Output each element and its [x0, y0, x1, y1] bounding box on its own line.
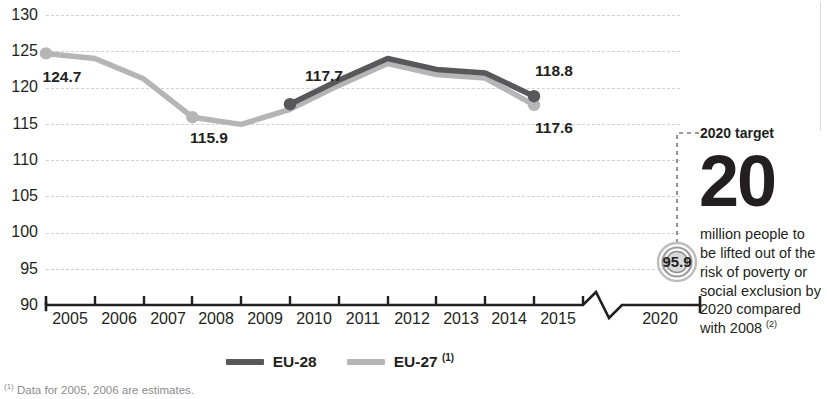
- target-description-sup: (2): [766, 319, 777, 329]
- target-marker-value: 95.9: [662, 253, 691, 270]
- data-label-eu27-2005: 124.7: [43, 68, 82, 86]
- y-tick-105: 105: [0, 187, 38, 205]
- x-tick-2005: 2005: [52, 310, 88, 328]
- legend-item-eu28[interactable]: EU-28: [226, 353, 317, 371]
- x-tick-2012: 2012: [394, 310, 430, 328]
- x-tick-2006: 2006: [101, 310, 137, 328]
- data-label-eu28-2015: 118.8: [535, 62, 573, 80]
- x-tick-2009: 2009: [247, 310, 283, 328]
- footnote-text: Data for 2005, 2006 are estimates.: [14, 384, 194, 396]
- target-marker-layer: 95.9: [46, 15, 706, 315]
- x-tick-2011: 2011: [346, 310, 380, 328]
- y-tick-120: 120: [0, 78, 38, 96]
- y-tick-100: 100: [0, 223, 38, 241]
- target-description: million people to be lifted out of the r…: [700, 225, 824, 338]
- legend-label-eu28: EU-28: [273, 353, 317, 371]
- x-tick-2013: 2013: [443, 310, 479, 328]
- right-vertical-rule: [820, 2, 821, 130]
- target-marker-95-9: 95.9: [658, 243, 696, 281]
- target-callout-title: 2020 target: [700, 125, 774, 141]
- plot-area: 95.9: [46, 15, 680, 305]
- y-tick-95: 95: [0, 260, 38, 278]
- x-tick-2014: 2014: [491, 310, 527, 328]
- y-tick-110: 110: [0, 151, 38, 169]
- y-tick-130: 130: [0, 6, 38, 24]
- data-label-eu27-2015: 117.6: [535, 119, 573, 137]
- y-tick-115: 115: [0, 115, 38, 133]
- chart-root: 130 125 120 115 110 105 100 95 90: [0, 0, 827, 399]
- legend-label-eu27-sup: (1): [442, 352, 454, 363]
- x-tick-2007: 2007: [150, 310, 186, 328]
- data-label-eu27-2008: 115.9: [190, 129, 228, 147]
- legend-swatch-eu28: [226, 359, 264, 365]
- legend-item-eu27[interactable]: EU-27 (1): [347, 352, 454, 371]
- chart-footnote: (1) Data for 2005, 2006 are estimates.: [4, 382, 194, 396]
- target-big-number: 20: [699, 148, 775, 214]
- data-label-eu28-2010: 117.7: [305, 67, 343, 85]
- legend-label-eu27: EU-27 (1): [394, 352, 454, 371]
- legend-label-eu27-text: EU-27: [394, 353, 442, 370]
- footnote-marker: (1): [4, 382, 14, 391]
- x-tick-2008: 2008: [198, 310, 234, 328]
- y-tick-125: 125: [0, 42, 38, 60]
- x-tick-2020: 2020: [642, 310, 678, 328]
- target-description-text: million people to be lifted out of the r…: [700, 226, 821, 336]
- target-connector-line: [677, 133, 701, 243]
- chart-legend: EU-28 EU-27 (1): [0, 352, 680, 371]
- y-tick-90: 90: [0, 296, 38, 314]
- legend-swatch-eu27: [347, 359, 385, 365]
- x-tick-2010: 2010: [296, 310, 332, 328]
- x-tick-2015: 2015: [540, 310, 576, 328]
